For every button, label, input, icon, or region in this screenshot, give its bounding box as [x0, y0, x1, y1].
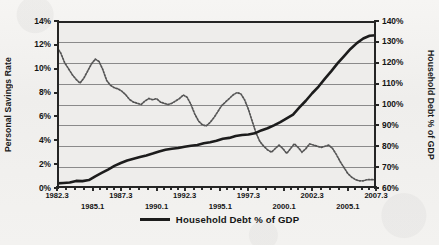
x-axis-tick-2007.3: 2007.3 [355, 191, 397, 200]
x-axis-tick-2000.1: 2000.1 [263, 202, 305, 211]
y-axis-right-tick-120: 120% [382, 57, 422, 67]
y-axis-left-tick-12: 12% [17, 39, 51, 49]
x-axis-tick-1997.3: 1997.3 [227, 191, 269, 200]
y-axis-left-tick-8: 8% [17, 87, 51, 97]
y-axis-left-tick-2: 2% [17, 159, 51, 169]
x-axis-tick-1995.1: 1995.1 [199, 202, 241, 211]
y-axis-right-tick-80: 80% [382, 141, 422, 151]
y-axis-right-tick-100: 100% [382, 99, 422, 109]
legend: Household Debt % of GDP [0, 214, 439, 225]
y-axis-left-tick-10: 10% [17, 63, 51, 73]
legend-label-household-debt: Household Debt % of GDP [176, 214, 299, 225]
y-axis-left-tick-14: 14% [17, 16, 51, 26]
y-axis-right-tick-130: 130% [382, 36, 422, 46]
x-axis-tick-1987.3: 1987.3 [100, 191, 142, 200]
y-axis-left-tick-4: 4% [17, 135, 51, 145]
y-axis-right-tick-70: 70% [382, 162, 422, 172]
y-axis-right-tick-110: 110% [382, 78, 422, 88]
legend-swatch-household-debt [140, 218, 170, 221]
chart-screenshot: Personal Savings Rate Household Debt % o… [0, 0, 439, 245]
plot-frame-border [57, 21, 376, 188]
y-axis-left-title: Personal Savings Rate [1, 21, 15, 188]
x-axis-tick-1985.1: 1985.1 [72, 202, 114, 211]
x-axis-tick-1982.3: 1982.3 [36, 191, 78, 200]
plot-area [57, 21, 376, 188]
x-axis-tick-2002.3: 2002.3 [291, 191, 333, 200]
x-axis-tick-1990.1: 1990.1 [136, 202, 178, 211]
x-axis-tick-1992.3: 1992.3 [164, 191, 206, 200]
y-axis-right-tick-90: 90% [382, 120, 422, 130]
y-axis-right-tick-140: 140% [382, 16, 422, 26]
y-axis-right-title: Household Debt % of GDP [424, 21, 438, 188]
y-axis-left-tick-6: 6% [17, 111, 51, 121]
x-axis-tick-2005.1: 2005.1 [327, 202, 369, 211]
